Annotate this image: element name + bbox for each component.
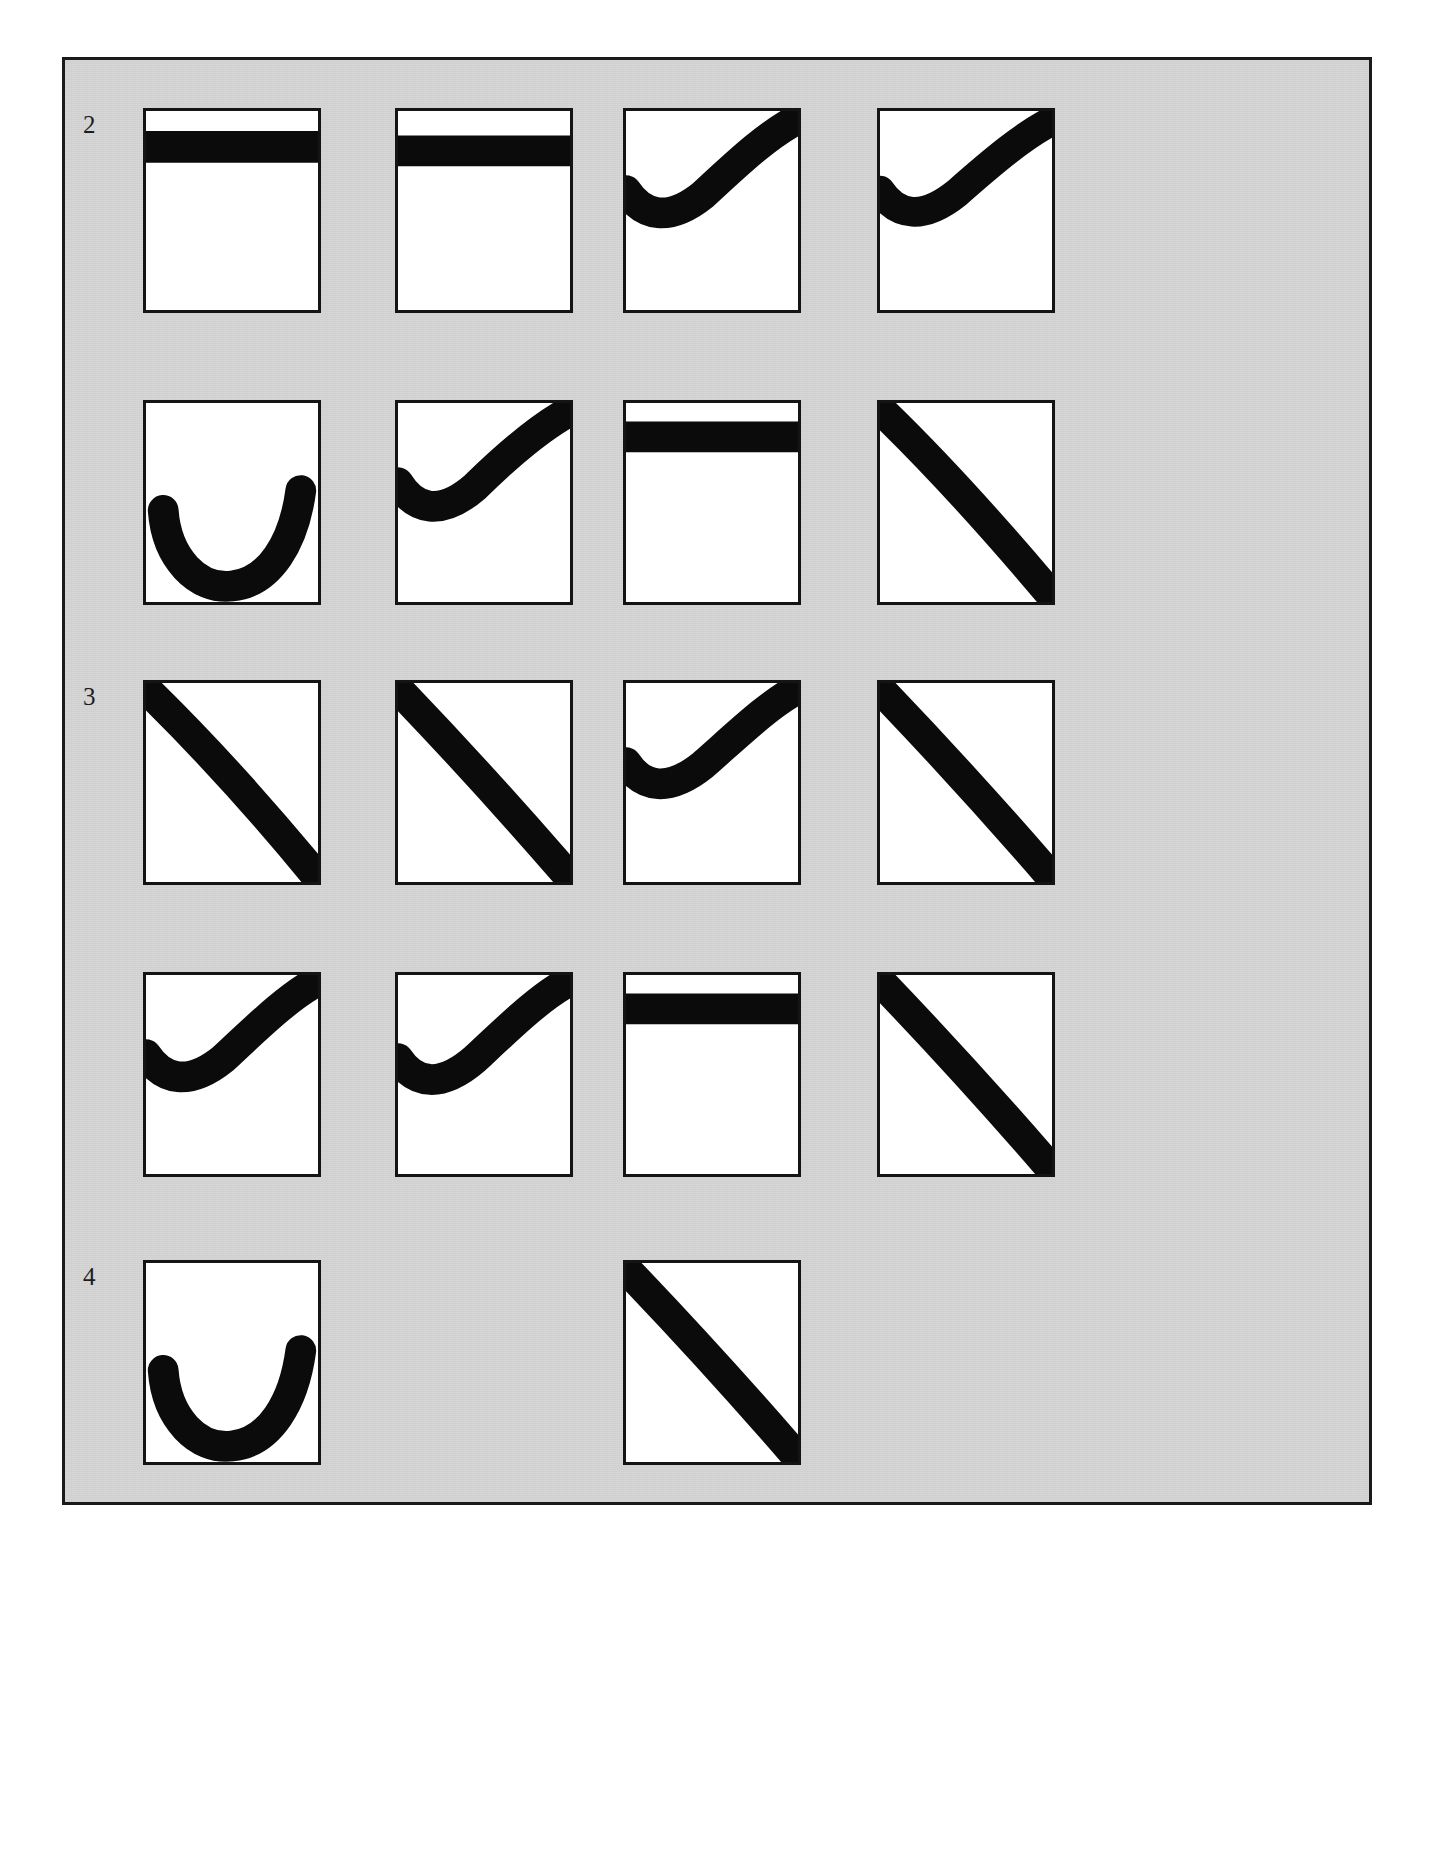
curve-panel — [623, 972, 801, 1177]
curve-plot — [398, 403, 570, 602]
curve-path — [880, 121, 1052, 212]
curve-path — [880, 981, 1052, 1170]
curve-plot — [146, 975, 318, 1174]
scanned-page: 234 — [0, 0, 1434, 1863]
curve-plot — [880, 975, 1052, 1174]
curve-plot — [398, 111, 570, 310]
curve-path — [880, 409, 1052, 596]
curve-panel — [143, 972, 321, 1177]
curve-plot — [626, 403, 798, 602]
curve-path — [626, 1269, 798, 1458]
curve-panel — [143, 1260, 321, 1465]
curve-panel — [395, 680, 573, 885]
curve-plot — [880, 403, 1052, 602]
curve-path — [398, 689, 570, 878]
curve-panel — [143, 108, 321, 313]
curve-plot — [146, 403, 318, 602]
row-label: 4 — [83, 1264, 96, 1289]
curve-panel — [143, 680, 321, 885]
curve-panel — [395, 972, 573, 1177]
curve-plot — [626, 683, 798, 882]
curve-plot — [146, 683, 318, 882]
curve-path — [626, 689, 798, 784]
curve-plot — [626, 975, 798, 1174]
curve-plot — [626, 111, 798, 310]
row-label: 2 — [83, 112, 96, 137]
curve-panel — [623, 1260, 801, 1465]
curve-plot — [880, 683, 1052, 882]
curve-plot — [626, 1263, 798, 1462]
curve-panel — [143, 400, 321, 605]
curve-path — [398, 981, 570, 1080]
curve-panel — [395, 108, 573, 313]
curve-panel — [877, 680, 1055, 885]
row-label: 3 — [83, 684, 96, 709]
curve-plot — [146, 1263, 318, 1462]
curve-path — [146, 689, 318, 878]
curve-panel — [623, 400, 801, 605]
curve-path — [398, 411, 570, 506]
curve-path — [880, 689, 1052, 878]
curve-plot — [880, 111, 1052, 310]
curve-plot — [398, 683, 570, 882]
curve-panel — [877, 972, 1055, 1177]
curve-plot — [146, 111, 318, 310]
curve-panel — [623, 108, 801, 313]
curve-panel — [395, 400, 573, 605]
figure-plate: 234 — [62, 57, 1372, 1505]
curve-panel — [877, 400, 1055, 605]
curve-path — [626, 119, 798, 213]
curve-panel — [877, 108, 1055, 313]
curve-plot — [398, 975, 570, 1174]
curve-panel — [623, 680, 801, 885]
